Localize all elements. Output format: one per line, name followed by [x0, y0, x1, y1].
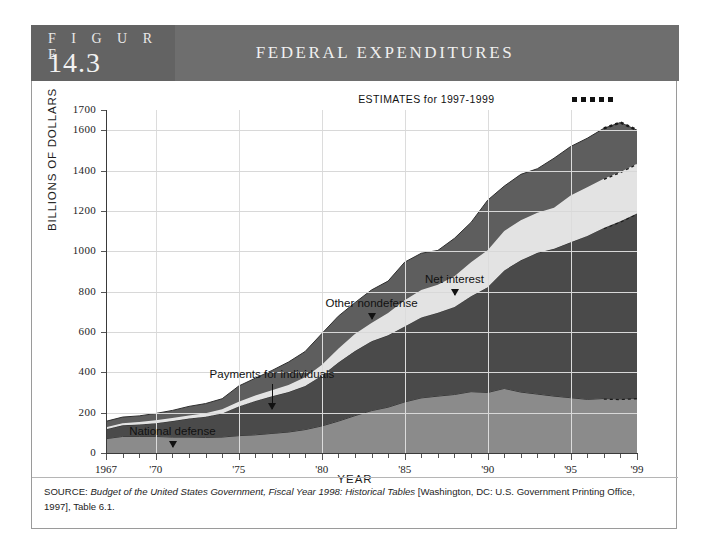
vertical-gridline	[322, 110, 323, 453]
y-axis-tick	[101, 110, 106, 111]
x-axis-tick	[239, 454, 240, 460]
gridline	[106, 211, 637, 212]
y-axis-tick	[101, 372, 106, 373]
annotation-label: Payments for individuals	[210, 368, 335, 380]
source-divider	[32, 477, 678, 478]
figure-header: FEDERAL EXPENDITURES F I G U R E 14.3	[31, 25, 679, 81]
figure-number-block: F I G U R E 14.3	[31, 25, 175, 81]
chart-area: BILLIONS OF DOLLARS 02004006008001000120…	[32, 81, 678, 477]
y-axis-tick	[101, 211, 106, 212]
x-axis-tick	[571, 454, 572, 460]
figure-container: FEDERAL EXPENDITURES F I G U R E 14.3 BI…	[31, 25, 679, 531]
gridline	[106, 251, 637, 252]
x-axis-tick	[338, 454, 339, 458]
y-axis-tick-label: 1000	[44, 244, 96, 256]
y-axis-tick	[101, 171, 106, 172]
x-axis-tick	[372, 454, 373, 458]
vertical-gridline	[239, 110, 240, 453]
source-note: SOURCE: Budget of the United States Gove…	[44, 485, 662, 515]
x-axis-tick	[454, 454, 455, 458]
x-axis-tick	[355, 454, 356, 458]
x-axis-tick	[255, 454, 256, 458]
x-axis-tick	[106, 454, 107, 460]
annotation-arrow	[272, 384, 273, 409]
y-axis-tick	[101, 332, 106, 333]
x-axis-tick	[471, 454, 472, 458]
x-axis-tick	[156, 454, 157, 460]
x-axis-tick	[289, 454, 290, 458]
stacked-area-series	[106, 110, 637, 453]
y-axis-tick	[101, 413, 106, 414]
y-axis-tick-label: 0	[44, 446, 96, 458]
gridline	[106, 130, 637, 131]
y-axis-tick	[101, 292, 106, 293]
x-axis-tick	[604, 454, 605, 458]
x-axis-tick	[139, 454, 140, 458]
annotation-label: Net interest	[425, 273, 484, 285]
y-axis-tick-label: 1700	[44, 103, 96, 115]
gridline	[106, 372, 637, 373]
annotation-arrow	[172, 441, 173, 447]
x-axis-tick	[405, 454, 406, 460]
x-axis-tick	[172, 454, 173, 458]
annotation-label: National defense	[129, 425, 215, 437]
gridline	[106, 292, 637, 293]
vertical-gridline	[156, 110, 157, 453]
x-axis-tick	[206, 454, 207, 458]
vertical-gridline	[488, 110, 489, 453]
x-axis-tick	[123, 454, 124, 458]
x-axis-tick	[438, 454, 439, 458]
x-axis-tick	[521, 454, 522, 458]
x-axis-tick	[305, 454, 306, 458]
x-axis-tick	[620, 454, 621, 458]
y-axis-tick	[101, 130, 106, 131]
estimates-legend-dots	[572, 97, 614, 102]
plot-region	[106, 110, 637, 453]
annotation-arrow	[372, 313, 373, 319]
x-axis-tick	[388, 454, 389, 458]
x-axis-tick	[189, 454, 190, 458]
gridline	[106, 413, 637, 414]
y-axis-line	[106, 110, 107, 454]
x-axis-title: YEAR	[32, 473, 678, 485]
x-axis-tick	[637, 454, 638, 460]
x-axis-tick	[537, 454, 538, 458]
gridline	[106, 332, 637, 333]
gridline	[106, 171, 637, 172]
y-axis-tick-label: 1400	[44, 164, 96, 176]
y-axis-tick-label: 200	[44, 406, 96, 418]
x-axis-tick	[272, 454, 273, 458]
x-axis-tick	[504, 454, 505, 458]
vertical-gridline	[405, 110, 406, 453]
x-axis-tick	[322, 454, 323, 460]
source-prefix: SOURCE:	[44, 486, 90, 497]
x-axis-tick	[587, 454, 588, 458]
source-title: Budget of the United States Government, …	[90, 486, 415, 497]
vertical-gridline	[571, 110, 572, 453]
x-axis-tick	[222, 454, 223, 458]
figure-number: 14.3	[48, 47, 101, 79]
y-axis-tick-label: 800	[44, 285, 96, 297]
x-axis-tick	[554, 454, 555, 458]
annotation-arrow	[454, 289, 455, 295]
figure-body: BILLIONS OF DOLLARS 02004006008001000120…	[31, 81, 677, 529]
x-axis-tick	[488, 454, 489, 460]
annotation-label: Other nondefense	[325, 297, 417, 309]
y-axis-tick	[101, 251, 106, 252]
y-axis-tick-label: 1200	[44, 204, 96, 216]
x-axis-tick	[421, 454, 422, 458]
estimates-legend-label: ESTIMATES for 1997-1999	[358, 93, 494, 105]
y-axis-tick-label: 1600	[44, 123, 96, 135]
y-axis-tick-label: 600	[44, 325, 96, 337]
y-axis-tick-label: 400	[44, 365, 96, 377]
